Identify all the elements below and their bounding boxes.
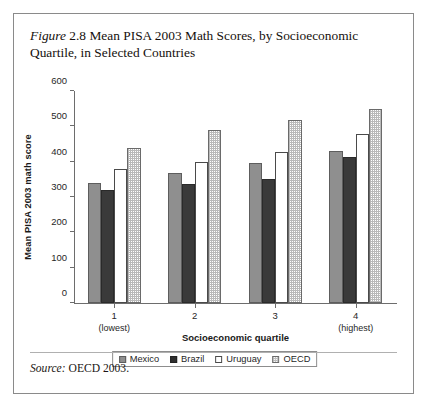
legend-item-oecd[interactable]: OECD (272, 354, 310, 364)
y-axis-tick-mark (70, 196, 74, 197)
bar-group: 3 (249, 91, 302, 303)
y-axis-tick-label: 200 (51, 216, 74, 227)
bar-group: 4(highest) (329, 91, 382, 303)
legend-label: OECD (283, 354, 310, 364)
x-axis-title: Socioeconomic quartile (74, 332, 397, 343)
legend-swatch-brazil (170, 356, 177, 363)
bar-group-bars (168, 91, 221, 303)
bar-mexico-q2[interactable] (168, 173, 181, 303)
y-axis-tick-mark (70, 161, 74, 162)
y-axis-tick-label: 0 (62, 287, 74, 298)
x-axis-tick-mark (275, 303, 276, 308)
x-axis-tick-label: 3 (249, 310, 302, 322)
bar-uruguay-q3[interactable] (275, 152, 288, 303)
bar-group: 2 (168, 91, 221, 303)
bar-uruguay-q2[interactable] (195, 162, 208, 303)
legend-label: Brazil (181, 354, 204, 364)
source-value: OECD 2003. (66, 362, 129, 375)
bar-uruguay-q1[interactable] (114, 169, 127, 303)
bar-brazil-q1[interactable] (101, 190, 114, 303)
y-axis-tick-label: 400 (51, 145, 74, 156)
bar-group-bars (329, 91, 382, 303)
figure-label: Figure (30, 28, 66, 43)
bar-oecd-q2[interactable] (208, 130, 221, 303)
source-note: Source: OECD 2003. (30, 362, 129, 375)
figure-caption-text: 2.8 Mean PISA 2003 Math Scores, by Socio… (30, 28, 358, 60)
figure-caption: Figure 2.8 Mean PISA 2003 Math Scores, b… (30, 27, 395, 61)
legend-label: Uruguay (226, 354, 261, 364)
legend-item-uruguay[interactable]: Uruguay (215, 354, 261, 364)
y-axis-tick-label: 300 (51, 181, 74, 192)
bar-brazil-q4[interactable] (343, 157, 356, 303)
x-axis-tick-label: 4(highest) (329, 310, 382, 334)
bar-mexico-q3[interactable] (249, 163, 262, 303)
figure-panel: Figure 2.8 Mean PISA 2003 Math Scores, b… (13, 13, 414, 394)
plot-area: 01002003004005006001(lowest)234(highest) (74, 91, 396, 303)
y-axis-tick-label: 100 (51, 251, 74, 262)
bar-mexico-q1[interactable] (88, 183, 101, 303)
legend-label: Mexico (130, 354, 159, 364)
y-axis-title: Mean PISA 2003 math score (23, 134, 33, 260)
y-axis-tick-label: 600 (51, 75, 74, 86)
bar-uruguay-q4[interactable] (356, 134, 369, 303)
y-axis-tick-mark (70, 302, 74, 303)
bar-mexico-q4[interactable] (329, 151, 342, 303)
x-axis-tick-mark (114, 303, 115, 308)
bar-oecd-q4[interactable] (369, 109, 382, 303)
x-axis-tick-label: 2 (168, 310, 221, 322)
bar-brazil-q2[interactable] (182, 184, 195, 303)
x-axis-tick-mark (195, 303, 196, 308)
x-axis-line (74, 303, 397, 304)
bar-group: 1(lowest) (88, 91, 141, 303)
legend-swatch-oecd (272, 356, 279, 363)
x-axis-tick-mark (356, 303, 357, 308)
x-axis-tick-label: 1(lowest) (88, 310, 141, 334)
bar-oecd-q3[interactable] (288, 120, 301, 303)
legend-swatch-uruguay (215, 356, 222, 363)
y-axis-tick-label: 500 (51, 110, 74, 121)
legend-item-brazil[interactable]: Brazil (170, 354, 204, 364)
y-axis-tick-mark (70, 90, 74, 91)
bar-brazil-q3[interactable] (262, 179, 275, 303)
y-axis-tick-mark (70, 267, 74, 268)
chart-legend: MexicoBrazilUruguayOECD (112, 351, 318, 367)
y-axis-tick-mark (70, 231, 74, 232)
source-label: Source: (30, 362, 66, 375)
y-axis-tick-mark (70, 125, 74, 126)
bar-oecd-q1[interactable] (127, 148, 140, 303)
source-divider (30, 352, 397, 353)
bar-chart: Mean PISA 2003 math score 01002003004005… (14, 74, 415, 364)
bar-group-bars (249, 91, 302, 303)
bar-group-bars (88, 91, 141, 303)
